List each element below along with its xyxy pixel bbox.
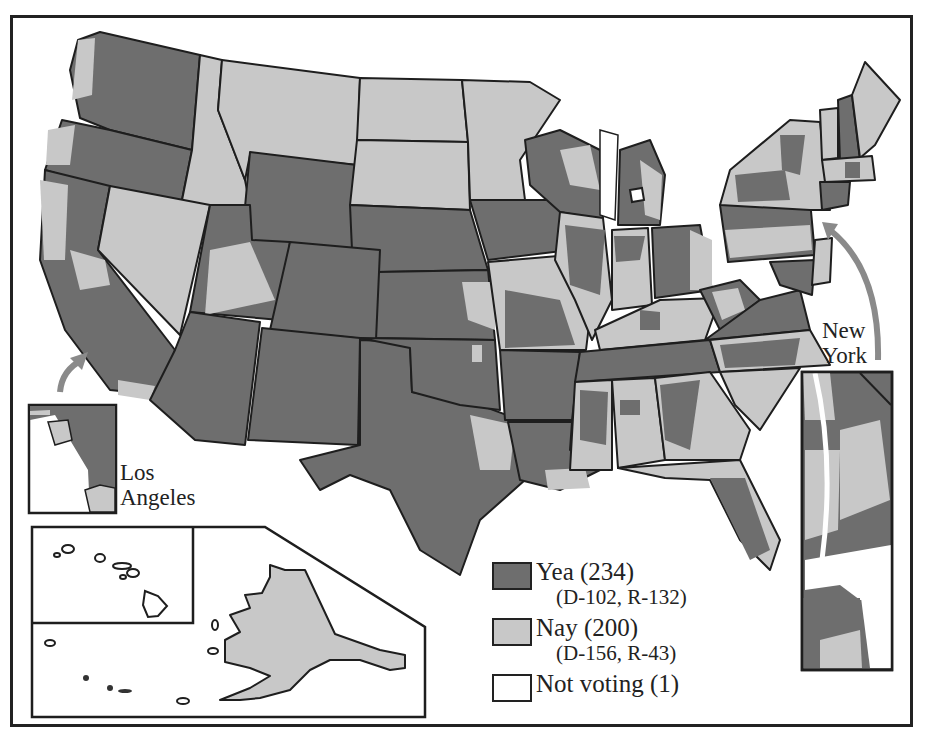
new-york-inset: [802, 372, 892, 670]
legend-not-voting-label: Not voting (1): [536, 670, 679, 698]
legend: Yea (234) (D-102, R-132) Nay (200) (D-15…: [492, 558, 687, 708]
los-angeles-label-line2: Angeles: [120, 485, 195, 510]
los-angeles-label-line1: Los: [120, 460, 195, 485]
us-house-vote-map: .y{fill:#6e6e6e;stroke:#1e1e1e;stroke-wi…: [0, 0, 929, 748]
los-angeles-label: Los Angeles: [120, 460, 195, 510]
state-arkansas: [500, 350, 580, 420]
state-vermont: [820, 108, 838, 160]
state-north-dakota: [357, 78, 468, 142]
state-new-mexico: [248, 328, 360, 445]
los-angeles-inset: [29, 405, 116, 513]
state-maryland: [770, 260, 815, 295]
legend-nay-label: Nay (200): [536, 614, 676, 642]
not-voting-swatch: [492, 674, 532, 702]
legend-nay-breakdown: (D-156, R-43): [556, 642, 676, 664]
yea-swatch: [492, 562, 532, 590]
state-south-dakota: [350, 140, 470, 210]
legend-yea-label: Yea (234): [536, 558, 687, 586]
state-maine: [852, 62, 900, 158]
legend-item-not-voting: Not voting (1): [492, 670, 687, 702]
state-new-jersey: [812, 238, 832, 285]
not-voting-district: [630, 188, 644, 202]
state-colorado: [270, 242, 380, 340]
legend-item-yea: Yea (234) (D-102, R-132): [492, 558, 687, 608]
hawaii-alaska-inset: [32, 527, 425, 717]
legend-yea-breakdown: (D-102, R-132): [556, 586, 687, 608]
new-york-label: New York: [822, 318, 867, 368]
state-arizona: [150, 312, 260, 445]
new-york-label-line2: York: [822, 343, 867, 368]
nay-swatch: [492, 618, 532, 646]
new-york-label-line1: New: [822, 318, 867, 343]
legend-item-nay: Nay (200) (D-156, R-43): [492, 614, 687, 664]
state-wyoming: [242, 152, 357, 250]
state-connecticut: [820, 182, 850, 210]
